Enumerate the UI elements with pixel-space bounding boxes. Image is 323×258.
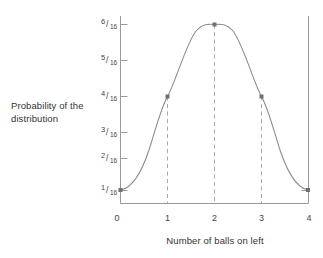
data-point-3 — [260, 95, 264, 99]
svg-text:/: / — [106, 185, 109, 195]
data-point-0 — [119, 188, 123, 192]
y-tick-label-5-16: 5 / 16 — [101, 53, 118, 66]
y-axis-title-line-2: distribution — [11, 112, 103, 125]
chart-page: 6 / 16 5 / 16 4 / 16 3 / 16 2 / — [0, 0, 323, 258]
x-tick-label-4: 4 — [306, 213, 311, 223]
svg-text:16: 16 — [110, 59, 118, 66]
x-tick-label-3: 3 — [259, 213, 264, 223]
guide-lines — [168, 25, 262, 204]
y-axis-title: Probability of the distribution — [11, 99, 103, 125]
y-axis-tick-labels: 6 / 16 5 / 16 4 / 16 3 / 16 2 / — [101, 17, 118, 196]
y-axis-ticks — [121, 25, 128, 191]
y-axis-title-line-1: Probability of the — [11, 99, 103, 112]
svg-text:5: 5 — [101, 53, 105, 62]
data-point-4 — [306, 188, 310, 192]
svg-text:16: 16 — [110, 23, 118, 30]
x-tick-label-2: 2 — [212, 213, 217, 223]
svg-text:/: / — [106, 127, 109, 137]
svg-text:3: 3 — [101, 125, 105, 134]
svg-text:1: 1 — [101, 183, 105, 192]
x-axis-title: Number of balls on left — [120, 234, 310, 247]
svg-text:/: / — [106, 153, 109, 163]
svg-text:16: 16 — [110, 189, 118, 196]
x-axis-tick-labels: 0 1 2 3 4 — [114, 213, 311, 223]
data-point-2 — [213, 23, 217, 27]
svg-text:/: / — [106, 91, 109, 101]
svg-text:16: 16 — [110, 131, 118, 138]
y-tick-label-4-16: 4 / 16 — [101, 89, 118, 102]
y-tick-label-6-16: 6 / 16 — [101, 17, 118, 30]
svg-text:6: 6 — [101, 17, 105, 26]
svg-text:/: / — [106, 19, 109, 29]
y-tick-label-1-16: 1 / 16 — [101, 183, 118, 196]
svg-text:4: 4 — [101, 89, 105, 98]
x-tick-label-1: 1 — [165, 213, 170, 223]
svg-text:2: 2 — [101, 151, 105, 160]
y-tick-label-3-16: 3 / 16 — [101, 125, 118, 138]
y-tick-label-2-16: 2 / 16 — [101, 151, 118, 164]
svg-text:16: 16 — [110, 95, 118, 102]
probability-distribution-chart: 6 / 16 5 / 16 4 / 16 3 / 16 2 / — [0, 0, 323, 258]
data-point-1 — [166, 95, 170, 99]
svg-text:/: / — [106, 55, 109, 65]
svg-text:16: 16 — [110, 157, 118, 164]
x-tick-label-0: 0 — [114, 213, 119, 223]
